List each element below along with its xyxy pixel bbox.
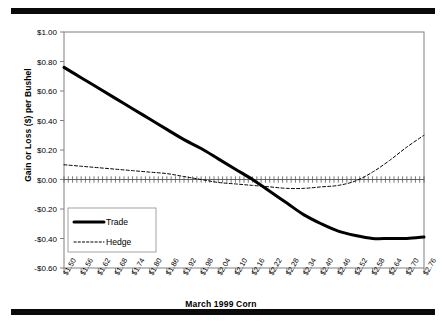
y-tick-label: -$0.60 bbox=[34, 264, 57, 273]
y-tick-label: -$0.40 bbox=[34, 235, 57, 244]
x-tick-label: $2.64 bbox=[387, 256, 404, 277]
y-tick-label: -$0.20 bbox=[34, 205, 57, 214]
y-tick-label: $0.80 bbox=[37, 58, 58, 67]
y-axis: $1.00$0.80$0.60$0.40$0.20$0.00-$0.20-$0.… bbox=[34, 28, 64, 273]
x-tick-label: $2.52 bbox=[352, 256, 369, 277]
x-axis: $1.50$1.56$1.62$1.68$1.74$1.80$1.86$1.92… bbox=[61, 256, 438, 277]
x-tick-label: $2.34 bbox=[301, 256, 318, 277]
legend-label-hedge: Hedge bbox=[106, 237, 132, 247]
x-tick-label: $1.92 bbox=[181, 256, 198, 277]
x-tick-label: $1.98 bbox=[198, 256, 215, 277]
x-tick-label: $2.40 bbox=[318, 256, 335, 277]
x-tick-label: $1.86 bbox=[164, 256, 181, 277]
x-tick-label: $1.68 bbox=[112, 256, 129, 277]
y-tick-label: $0.20 bbox=[37, 146, 58, 155]
x-tick-label: $1.56 bbox=[78, 256, 95, 277]
zero-line bbox=[64, 176, 424, 182]
x-tick-label: $2.04 bbox=[215, 256, 232, 277]
plot-area: $1.00$0.80$0.60$0.40$0.20$0.00-$0.20-$0.… bbox=[0, 0, 442, 323]
x-tick-label: $2.28 bbox=[284, 256, 301, 277]
legend-label-trade: Trade bbox=[106, 217, 128, 227]
y-tick-label: $0.60 bbox=[37, 87, 58, 96]
x-tick-label: $2.76 bbox=[421, 256, 438, 277]
x-tick-label: $2.70 bbox=[404, 256, 421, 277]
x-tick-label: $2.58 bbox=[370, 256, 387, 277]
x-tick-label: $1.62 bbox=[95, 256, 112, 277]
y-tick-label: $0.00 bbox=[37, 176, 58, 185]
x-tick-label: $1.50 bbox=[61, 256, 78, 277]
x-tick-label: $1.74 bbox=[130, 256, 147, 277]
y-tick-label: $0.40 bbox=[37, 117, 58, 126]
legend: TradeHedge bbox=[68, 208, 156, 252]
chart-figure: Gain or Loss ($) per Bushel March 1999 C… bbox=[0, 0, 442, 323]
y-tick-label: $1.00 bbox=[37, 28, 58, 37]
x-tick-label: $2.46 bbox=[335, 256, 352, 277]
chart-canvas: $1.00$0.80$0.60$0.40$0.20$0.00-$0.20-$0.… bbox=[0, 0, 442, 323]
x-tick-label: $2.22 bbox=[267, 256, 284, 277]
x-tick-label: $1.80 bbox=[147, 256, 164, 277]
x-tick-label: $2.16 bbox=[250, 256, 267, 277]
x-tick-label: $2.10 bbox=[232, 256, 249, 277]
